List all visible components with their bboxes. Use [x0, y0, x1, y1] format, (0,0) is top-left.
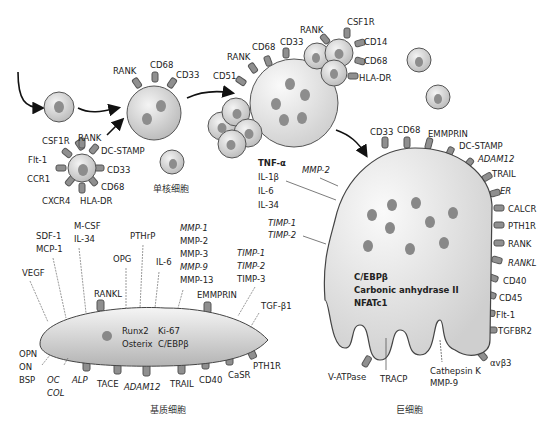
- stromal-il6: IL-6: [156, 257, 172, 267]
- entry-arrow: [18, 72, 42, 108]
- stromal-opg: OPG: [113, 254, 131, 264]
- marker-cd33: CD33: [107, 165, 130, 175]
- stromal-mmp13: MMP-13: [180, 275, 214, 285]
- giant-marker-calcr: CALCR: [508, 204, 536, 214]
- stromal-tgfb1: TGF-β1: [260, 301, 292, 311]
- stromal-osterix: Osterix: [122, 339, 153, 349]
- marker-csf1r: CSF1R: [42, 136, 70, 146]
- marker-cxcr4: CXCR4: [42, 196, 70, 206]
- stromal-timp3: TIMP-3: [236, 274, 265, 284]
- stromal-opn: OPN: [19, 349, 37, 359]
- stromal-timp2: TIMP-2: [237, 261, 265, 271]
- stromal-pthrp: PTHrP: [130, 231, 155, 241]
- cluster-marker-cd14: CD14: [364, 37, 387, 47]
- stromal-runx2: Runx2: [122, 326, 149, 336]
- factor-tnf: TNF-α: [258, 158, 286, 168]
- monocyte-marker-cd33: CD33: [176, 70, 199, 80]
- giant-marker-er: ER: [500, 186, 511, 196]
- marker-cd68: CD68: [101, 182, 124, 192]
- giant-bottom-tracp: TRACP: [379, 374, 407, 384]
- stromal-col: COL: [47, 388, 65, 398]
- giant-internal-nfatc1: NFATc1: [354, 298, 388, 308]
- cluster-marker-cd68: CD68: [364, 56, 387, 66]
- stromal-oc: OC: [47, 375, 60, 385]
- giant-marker-emmprin: EMMPRIN: [428, 129, 468, 139]
- monocyte: [127, 72, 181, 140]
- giant-secreted-mmp2: MMP-2: [302, 165, 330, 175]
- free-cells: [407, 48, 450, 109]
- precursor-cell: [56, 138, 104, 193]
- arrow-to-giant: [336, 130, 366, 155]
- factor-il34: IL-34: [258, 200, 279, 210]
- giant-bottom-cathepsin: Cathepsin K: [430, 366, 481, 376]
- stromal-on: ON: [19, 362, 32, 372]
- stromal-cd40: CD40: [199, 375, 222, 385]
- giant-marker-cd40: CD40: [503, 276, 526, 286]
- marker-dc-stamp: DC-STAMP: [101, 146, 145, 156]
- factor-il6: IL-6: [258, 186, 274, 196]
- factor-line: [286, 181, 336, 200]
- monocyte-free: [160, 150, 184, 174]
- stromal-casr: CaSR: [228, 370, 251, 380]
- stromal-rankl: RANKL: [94, 289, 122, 299]
- giant-marker-dc-stamp: DC-STAMP: [459, 141, 503, 151]
- fusing-marker-cd51: CD51: [213, 71, 236, 81]
- giant-bottom-mmp9: MMP-9: [430, 378, 458, 388]
- giant-marker-cd68: CD68: [397, 125, 420, 135]
- giant-marker-tgfbr2: TGFBR2: [497, 326, 532, 336]
- timp-line: [303, 236, 326, 244]
- stromal-timp1: TIMP-1: [237, 248, 265, 258]
- giant-secreted-timp2: TIMP-2: [268, 230, 296, 240]
- giant-secreted-timp1: TIMP-1: [268, 218, 296, 228]
- giant-marker-rankl: RANKL: [508, 258, 537, 268]
- stromal-trail: TRAIL: [169, 379, 194, 389]
- marker-flt1: Flt-1: [28, 155, 47, 165]
- diagram-canvas: CSF1R RANK DC-STAMP CD33 CD68 HLA-DR CXC…: [0, 0, 552, 427]
- cathepsin-line: [440, 340, 442, 362]
- giant-marker-trail: TRAIL: [491, 169, 516, 179]
- marker-hla-dr: HLA-DR: [80, 196, 113, 206]
- stromal-pth1r: PTH1R: [253, 361, 281, 371]
- giant-marker-cd33: CD33: [370, 127, 393, 137]
- stromal-vegf: VEGF: [22, 268, 45, 278]
- arrow-to-fusion: [187, 92, 232, 98]
- stromal-cebpb: C/EBPβ: [158, 339, 189, 349]
- small-monocyte: [44, 92, 74, 122]
- arrow-to-monocyte: [78, 108, 118, 112]
- stromal-mmp3: MMP-3: [180, 249, 208, 259]
- giant-bottom-vatpase: V-ATPase: [328, 372, 366, 382]
- arrow-precursor: [107, 120, 122, 135]
- giant-internal-ca2: Carbonic anhydrase II: [354, 285, 459, 295]
- giant-caption: 巨细胞: [396, 404, 423, 415]
- giant-marker-adam12: ADAM12: [477, 154, 514, 164]
- stromal-adam12: ADAM12: [123, 382, 160, 392]
- stromal-il34: IL-34: [74, 234, 95, 244]
- stromal-mmp2: MMP-2: [180, 236, 208, 246]
- giant-cell: [324, 137, 504, 368]
- factor-il1b: IL-1β: [258, 172, 279, 182]
- stromal-ki67: Ki-67: [158, 326, 180, 336]
- giant-marker-pth1r: PTH1R: [508, 221, 536, 231]
- fusing-marker-cd33: CD33: [280, 37, 303, 47]
- marker-rank: RANK: [78, 133, 102, 143]
- stromal-cell: [40, 300, 268, 376]
- giant-marker-cd45: CD45: [499, 293, 522, 303]
- monocyte-marker-cd68: CD68: [150, 60, 173, 70]
- cluster-marker-rank: RANK: [300, 25, 324, 35]
- cluster-marker-csf1r: CSF1R: [347, 17, 375, 27]
- stromal-caption: 基质细胞: [150, 404, 186, 415]
- stromal-bsp: BSP: [19, 375, 35, 385]
- mmp2-line: [320, 178, 338, 186]
- stromal-mcsf: M-CSF: [74, 221, 101, 231]
- monocyte-marker-rank: RANK: [113, 66, 137, 76]
- giant-marker-rank: RANK: [508, 239, 532, 249]
- giant-internal-cebpb: C/EBPβ: [354, 272, 388, 282]
- fusing-marker-rank: RANK: [227, 52, 251, 62]
- stromal-mcp1: MCP-1: [36, 244, 63, 254]
- giant-marker-avb3: αvβ3: [490, 358, 511, 368]
- stromal-alp: ALP: [71, 375, 89, 385]
- monocyte-caption: 单核细胞: [153, 183, 189, 194]
- stromal-sdf1: SDF-1: [36, 231, 61, 241]
- fusing-marker-cd68: CD68: [252, 42, 275, 52]
- cluster-marker-hla-dr: HLA-DR: [359, 73, 392, 83]
